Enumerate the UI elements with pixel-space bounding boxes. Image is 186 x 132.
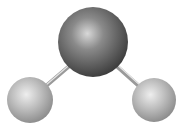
atom-oxygen-center [58,7,128,77]
molecule-diagram: water (H2O) [0,0,186,132]
atom-hydrogen-right [132,78,176,122]
atom-hydrogen-left [7,77,53,123]
molecule-svg [0,0,186,132]
